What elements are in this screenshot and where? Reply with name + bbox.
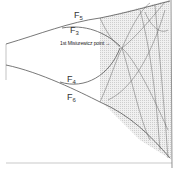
chaotic-region [100, 0, 172, 160]
label-F3: F3 [70, 26, 79, 38]
misiurewicz-annotation: 1st Misiurewicz point → [60, 40, 110, 46]
bifurcation-diagram [0, 0, 178, 169]
label-F6: F6 [67, 93, 76, 105]
label-F4: F4 [67, 75, 76, 87]
label-F5: F5 [74, 11, 83, 23]
